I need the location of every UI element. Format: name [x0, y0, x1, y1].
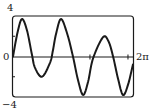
y-zero-label: 0 — [3, 52, 9, 62]
y-min-label: −4 — [2, 100, 17, 110]
x-max-label: 2π — [136, 52, 149, 62]
y-max-label: 4 — [7, 3, 13, 13]
function-plot — [0, 0, 155, 110]
